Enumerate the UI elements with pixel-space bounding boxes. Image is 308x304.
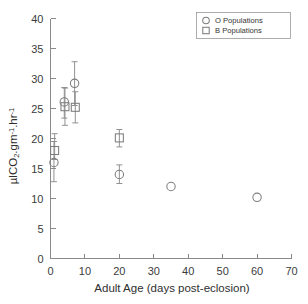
x-axis-title: Adult Age (days post-eclosion) bbox=[94, 282, 250, 294]
x-tick-label: 50 bbox=[217, 265, 229, 277]
error-bar bbox=[62, 88, 68, 125]
y-tick-label: 10 bbox=[31, 193, 43, 205]
y-axis-ticks: 0510152025303540 bbox=[31, 13, 55, 265]
axes bbox=[51, 19, 292, 259]
y-tick-label: 20 bbox=[31, 133, 43, 145]
y-tick-label: 5 bbox=[37, 223, 43, 235]
data-point-circle bbox=[253, 193, 261, 201]
x-tick-label: 60 bbox=[251, 265, 263, 277]
figure-container: 0510152025303540 010203040506070 µlCO2.g… bbox=[0, 0, 308, 304]
legend-marker-circle-icon bbox=[203, 17, 210, 24]
legend-label-b-populations: B Populations bbox=[215, 26, 262, 35]
y-axis-title: µlCO2.gm-1.hr-1 bbox=[7, 108, 21, 185]
legend-label-o-populations: O Populations bbox=[215, 16, 263, 25]
error-bar bbox=[72, 62, 78, 106]
y-tick-label: 30 bbox=[31, 73, 43, 85]
data-points bbox=[50, 79, 262, 201]
error-bar bbox=[116, 165, 122, 184]
error-bars bbox=[51, 62, 122, 184]
x-tick-label: 70 bbox=[285, 265, 297, 277]
x-tick-label: 10 bbox=[79, 265, 91, 277]
y-tick-label: 0 bbox=[37, 253, 43, 265]
y-tick-label: 15 bbox=[31, 163, 43, 175]
data-point-circle bbox=[167, 182, 175, 190]
error-bar bbox=[72, 92, 78, 123]
legend-marker-square-icon bbox=[203, 27, 209, 33]
y-tick-label: 35 bbox=[31, 43, 43, 55]
y-tick-label: 40 bbox=[31, 13, 43, 25]
x-tick-label: 0 bbox=[47, 265, 53, 277]
scatter-plot: 0510152025303540 010203040506070 µlCO2.g… bbox=[0, 0, 308, 304]
x-tick-label: 40 bbox=[182, 265, 194, 277]
x-tick-label: 30 bbox=[148, 265, 160, 277]
legend: O Populations B Populations bbox=[197, 13, 291, 39]
x-axis-ticks: 010203040506070 bbox=[47, 254, 297, 277]
error-bar bbox=[51, 142, 57, 182]
error-bar bbox=[116, 130, 122, 147]
x-tick-label: 20 bbox=[113, 265, 125, 277]
y-tick-label: 25 bbox=[31, 103, 43, 115]
